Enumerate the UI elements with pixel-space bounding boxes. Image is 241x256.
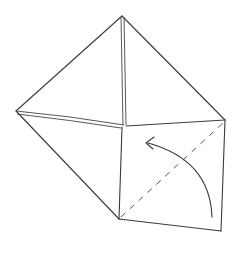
origami-diagram: [0, 0, 241, 256]
center-crease: [121, 17, 126, 125]
valley-fold-line: [121, 123, 223, 217]
fold-direction-arrow-icon: [146, 137, 212, 217]
square-left-edge: [119, 127, 122, 219]
left-flap-edge: [16, 111, 124, 128]
right-flap-edge: [126, 120, 225, 126]
origami-fold-drawing: [0, 0, 241, 256]
paper-outline: [16, 16, 225, 231]
